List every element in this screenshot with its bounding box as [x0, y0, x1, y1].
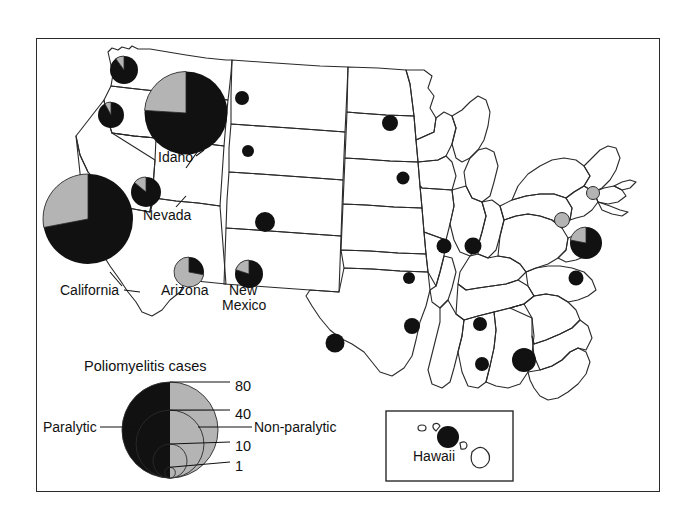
legend-title: Poliomyelitis cases [84, 358, 207, 374]
case-symbol-tennessee [473, 317, 487, 331]
case-symbol-wyoming [242, 145, 254, 157]
legend-label-paralytic: Paralytic [43, 420, 97, 434]
legend-label-non-paralytic: Non-paralytic [254, 420, 336, 434]
case-symbol-iowa [397, 172, 410, 185]
case-symbol-alabama [475, 357, 489, 371]
legend-tick-40: 40 [235, 406, 251, 422]
legend-tick-10: 10 [235, 438, 251, 454]
case-symbol-illinois [437, 239, 452, 254]
inset-label-hawaii: Hawaii [413, 449, 455, 463]
legend-tick-1: 1 [235, 458, 243, 474]
case-symbol-new-york [555, 213, 570, 228]
map-figure: Idaho Nevada California Arizona New Mexi… [0, 0, 696, 512]
legend-circle-1 [165, 467, 176, 478]
callout-label-california: California [60, 283, 119, 297]
case-symbol-mississippi [404, 318, 420, 334]
callout-label-new: New [229, 283, 257, 297]
case-symbol-texas [326, 334, 345, 353]
legend-tick-80: 80 [235, 378, 251, 394]
case-symbol-oregon [98, 102, 124, 128]
callout-label-arizona: Arizona [161, 283, 208, 297]
case-symbol-colorado [255, 212, 275, 232]
case-symbol-connecticut [587, 187, 600, 200]
case-symbol-delaware [570, 227, 602, 259]
case-symbol-georgia [512, 348, 536, 372]
case-symbol-virginia [569, 271, 584, 286]
case-symbol-nevada [131, 177, 161, 207]
case-symbol-california [43, 174, 133, 264]
hawaii-inset [386, 411, 513, 481]
hawaii-case-symbol [437, 426, 459, 448]
callout-label-mexico: Mexico [222, 298, 266, 312]
state-case-symbols [43, 56, 602, 372]
callout-label-idaho: Idaho [158, 150, 193, 164]
case-symbol-montana [235, 91, 249, 105]
case-symbol-idaho [145, 71, 228, 154]
map-canvas [0, 0, 696, 512]
legend-size-circles [100, 382, 252, 478]
callout-label-nevada: Nevada [143, 208, 191, 222]
case-symbol-indiana [465, 238, 482, 255]
case-symbol-missouri [403, 272, 415, 284]
case-symbol-washington [110, 56, 138, 84]
case-symbol-minnesota [382, 115, 398, 131]
